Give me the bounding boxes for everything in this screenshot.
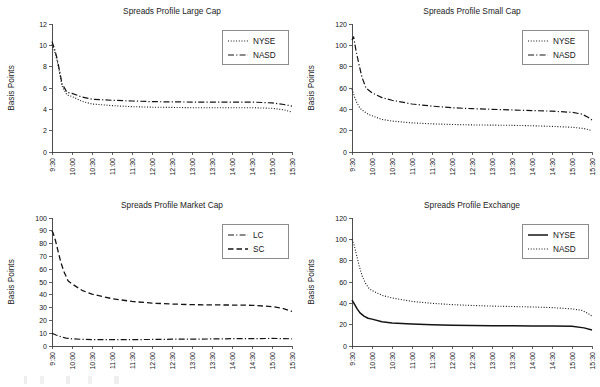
y-tick-label: 20	[339, 321, 347, 328]
y-tick-label: 50	[39, 279, 47, 286]
x-tick-label: 12:30	[169, 158, 176, 176]
legend-label-nyse: NYSE	[553, 37, 576, 46]
chart-title: Spreads Profile Market Cap	[121, 200, 223, 210]
y-tick-label: 2	[43, 127, 47, 134]
y-tick-label: 0	[43, 149, 47, 156]
x-tick-label: 9:30	[49, 352, 56, 366]
y-tick-label: 80	[339, 63, 347, 70]
y-tick-label: 4	[43, 106, 47, 113]
y-axis-ticks: 020406080100120	[335, 215, 352, 350]
x-tick-label: 10:00	[69, 158, 76, 176]
y-tick-label: 0	[43, 343, 47, 350]
x-tick-label: 11:30	[129, 352, 136, 369]
x-tick-label: 10:30	[89, 158, 96, 176]
y-tick-label: 6	[43, 85, 47, 92]
series-lc	[52, 333, 292, 339]
x-tick-label: 15:00	[569, 352, 576, 370]
y-tick-label: 100	[335, 42, 347, 49]
legend: NYSENASD	[522, 224, 588, 258]
y-axis-label: Basis Points	[306, 65, 316, 111]
x-tick-label: 15:00	[269, 352, 276, 370]
x-tick-label: 12:00	[449, 158, 456, 176]
y-tick-label: 40	[339, 106, 347, 113]
legend: NYSENASD	[522, 30, 588, 64]
x-tick-label: 11:00	[109, 352, 116, 369]
chart-market-cap: Spreads Profile Market CapBasis Points01…	[0, 194, 300, 387]
x-tick-label: 15:00	[569, 158, 576, 176]
y-tick-label: 40	[39, 291, 47, 298]
chart-title: Spreads Profile Small Cap	[423, 6, 521, 16]
x-tick-label: 11:30	[129, 158, 136, 175]
x-axis-ticks: 9:3010:0010:3011:0011:3012:0012:3013:001…	[349, 152, 596, 176]
y-tick-label: 60	[339, 279, 347, 286]
y-tick-label: 80	[339, 257, 347, 264]
legend-label-nasd: NASD	[253, 51, 276, 60]
x-tick-label: 13:00	[489, 158, 496, 176]
x-axis-ticks: 9:3010:0010:3011:0011:3012:0012:3013:001…	[49, 152, 296, 176]
y-tick-label: 0	[343, 149, 347, 156]
x-tick-label: 11:30	[429, 158, 436, 175]
legend-label-nyse: NYSE	[553, 231, 576, 240]
legend-label-sc: SC	[253, 245, 264, 254]
x-tick-label: 14:00	[529, 352, 536, 370]
x-tick-label: 14:30	[249, 352, 256, 370]
x-tick-label: 13:30	[509, 352, 516, 370]
y-tick-label: 80	[39, 240, 47, 247]
y-tick-label: 60	[339, 85, 347, 92]
legend-label-lc: LC	[253, 231, 264, 240]
y-tick-label: 30	[39, 304, 47, 311]
y-tick-label: 10	[39, 330, 47, 337]
legend-label-nasd: NASD	[553, 51, 576, 60]
y-tick-label: 60	[39, 266, 47, 273]
x-tick-label: 13:30	[209, 158, 216, 176]
legend: LCSC	[222, 224, 288, 258]
y-tick-label: 20	[39, 317, 47, 324]
x-tick-label: 14:30	[549, 352, 556, 370]
x-tick-label: 12:30	[469, 158, 476, 176]
y-tick-label: 120	[335, 215, 347, 222]
x-tick-label: 13:00	[489, 352, 496, 370]
y-tick-label: 100	[335, 236, 347, 243]
x-tick-label: 13:00	[189, 352, 196, 370]
x-tick-label: 14:30	[549, 158, 556, 176]
y-tick-label: 90	[39, 227, 47, 234]
x-tick-label: 14:00	[529, 158, 536, 176]
x-tick-label: 15:00	[269, 158, 276, 176]
x-tick-label: 15:30	[589, 352, 596, 370]
x-tick-label: 13:30	[509, 158, 516, 176]
series-nyse	[352, 89, 592, 131]
y-axis-label: Basis Points	[6, 65, 16, 111]
y-axis-label: Basis Points	[6, 259, 16, 305]
x-tick-label: 15:30	[289, 352, 296, 370]
y-tick-label: 8	[43, 63, 47, 70]
y-tick-label: 120	[335, 21, 347, 28]
x-tick-label: 9:30	[349, 158, 356, 172]
y-tick-label: 100	[35, 215, 47, 222]
x-tick-label: 11:30	[429, 352, 436, 369]
x-tick-label: 12:30	[469, 352, 476, 370]
x-tick-label: 14:00	[229, 158, 236, 176]
legend: NYSENASD	[222, 30, 288, 64]
x-tick-label: 15:30	[589, 158, 596, 176]
legend-label-nasd: NASD	[553, 245, 576, 254]
panel-market-cap: Spreads Profile Market CapBasis Points01…	[0, 194, 300, 387]
x-tick-label: 15:30	[289, 158, 296, 176]
x-tick-label: 10:00	[369, 158, 376, 176]
x-tick-label: 13:30	[209, 352, 216, 370]
x-tick-label: 11:00	[109, 158, 116, 175]
x-tick-label: 10:30	[89, 352, 96, 370]
x-tick-label: 11:00	[409, 352, 416, 369]
x-tick-label: 10:30	[389, 352, 396, 370]
chart-exchange: Spreads Profile ExchangeBasis Points0204…	[300, 194, 600, 387]
chart-small-cap: Spreads Profile Small CapBasis Points020…	[300, 0, 600, 193]
y-tick-label: 20	[339, 127, 347, 134]
chart-title: Spreads Profile Large Cap	[123, 6, 221, 16]
x-tick-label: 12:00	[149, 158, 156, 176]
series-nyse	[352, 300, 592, 330]
x-tick-label: 10:30	[389, 158, 396, 176]
chart-title: Spreads Profile Exchange	[424, 200, 520, 210]
x-tick-label: 9:30	[49, 158, 56, 172]
x-tick-label: 10:00	[69, 352, 76, 370]
chart-large-cap: Spreads Profile Large CapBasis Points024…	[0, 0, 300, 193]
figure-canvas: Spreads Profile Large CapBasis Points024…	[0, 0, 600, 387]
